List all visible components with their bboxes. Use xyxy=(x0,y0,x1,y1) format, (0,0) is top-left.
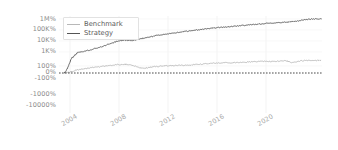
y-tick-label: 100K% xyxy=(33,26,56,33)
legend-item-strategy[interactable]: Strategy xyxy=(67,29,113,38)
y-tick-label: 10K% xyxy=(37,37,56,44)
y-tick-label: -1000% xyxy=(30,91,56,98)
legend-swatch-strategy xyxy=(67,33,80,34)
series-line-benchmark xyxy=(64,60,320,73)
legend-label-strategy: Strategy xyxy=(84,29,113,38)
legend-swatch-benchmark xyxy=(67,24,80,25)
chart-legend: Benchmark Strategy xyxy=(63,17,139,40)
y-tick-label: -10000% xyxy=(26,102,56,109)
y-tick-label: -100% xyxy=(35,75,56,82)
y-tick-label: 1K% xyxy=(41,48,56,55)
legend-label-benchmark: Benchmark xyxy=(84,20,123,29)
y-axis-tick-labels: 1M% 100K% 10K% 1K% 100% 0% -100% -1000% … xyxy=(0,0,56,150)
cumulative-returns-chart: 1M% 100K% 10K% 1K% 100% 0% -100% -1000% … xyxy=(0,0,338,150)
legend-item-benchmark[interactable]: Benchmark xyxy=(67,20,123,29)
y-tick-label: 1M% xyxy=(40,16,56,23)
